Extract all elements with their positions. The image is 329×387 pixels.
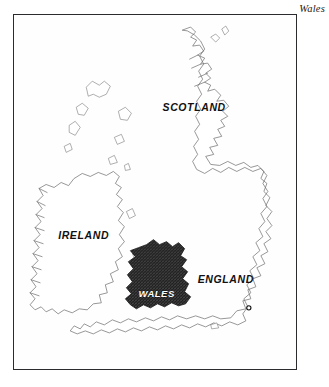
england-map-label: ENGLAND (198, 273, 254, 285)
map-frame: WALES SCOTLAND IRELAND ENGLAND (13, 14, 297, 370)
orkney-isle (211, 34, 220, 42)
isle-of-man (126, 209, 135, 219)
outer-hebrides-south (69, 121, 80, 135)
city-marker-icon[interactable] (247, 306, 251, 310)
scotland-map-label: SCOTLAND (163, 101, 226, 113)
ireland-map-label: IRELAND (58, 229, 109, 241)
mull-isle (114, 134, 124, 144)
wales-map-label: WALES (138, 288, 175, 299)
figure-caption: Wales (299, 3, 325, 14)
shetland-isle (222, 26, 229, 35)
ireland-coast (30, 171, 124, 313)
map-svg: WALES SCOTLAND IRELAND ENGLAND (14, 15, 296, 369)
figure-container: Wales (0, 0, 329, 387)
outer-hebrides-mid (76, 103, 88, 115)
skye-isle (118, 107, 131, 120)
outer-hebrides-north (86, 81, 110, 97)
wales-region[interactable]: WALES (125, 240, 190, 309)
islay-isle (108, 155, 117, 164)
barra-isle (64, 143, 72, 152)
ireland-outline (30, 171, 124, 313)
arran-isle (124, 163, 130, 170)
